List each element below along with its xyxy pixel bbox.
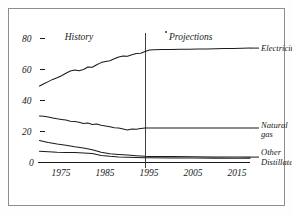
x-tick-label-2015: 2015 [228,168,247,178]
projections-annotation: Projections [168,32,213,42]
x-tick-label-1985: 1985 [96,168,115,178]
series-label-natural-gas-line2: gas [261,129,274,139]
y-tick-label-60: 60 [22,65,32,75]
series-label-distillate: Distillate [260,157,292,167]
line-chart-plot: 80 60 40 20 0 1975 1985 1995 2005 2015 H… [0,0,292,215]
chart-figure: 80 60 40 20 0 1975 1985 1995 2005 2015 H… [0,0,292,215]
x-tick-label-1995: 1995 [140,168,159,178]
x-tick-label-2005: 2005 [184,168,203,178]
series-line-natural-gas [40,116,251,130]
y-tick-label-20: 20 [22,127,32,137]
series-label-electricity: Electricity [260,43,292,53]
y-tick-label-40: 40 [22,96,32,106]
series-line-electricity [40,48,251,86]
y-tick-label-0: 0 [29,158,34,168]
y-tick-label-80: 80 [22,34,32,44]
history-annotation: History [64,32,94,42]
series-label-other: Other [261,147,282,157]
projections-marker-dot [165,31,167,33]
x-tick-label-1975: 1975 [52,168,71,178]
series-line-other [40,141,251,158]
